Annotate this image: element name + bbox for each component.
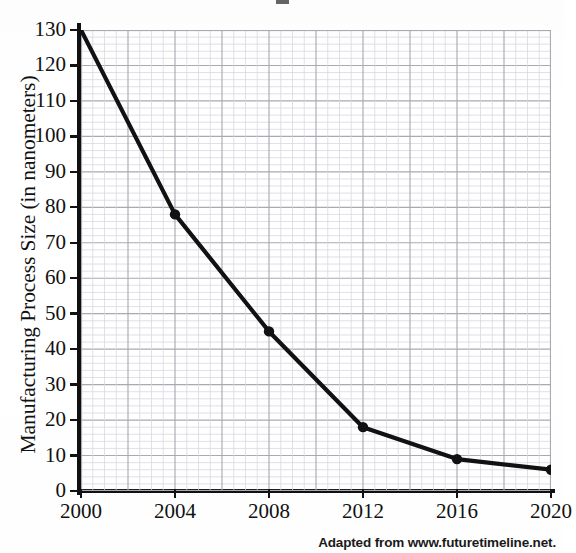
y-tick-mark — [70, 490, 79, 492]
y-tick-label: 30 — [22, 374, 66, 395]
x-tick-label: 2012 — [328, 500, 398, 522]
y-tick-label: 100 — [22, 125, 66, 146]
y-tick-label: 80 — [22, 196, 66, 217]
y-tick-mark — [70, 171, 79, 173]
y-tick-label: 70 — [22, 232, 66, 253]
y-tick-mark — [70, 383, 79, 385]
x-tick-label: 2000 — [46, 500, 116, 522]
y-tick-mark — [70, 312, 79, 314]
y-tick-mark — [70, 348, 79, 350]
y-tick-mark — [70, 419, 79, 421]
y-tick-label: 130 — [22, 19, 66, 40]
x-tick-label: 2008 — [234, 500, 304, 522]
y-tick-label: 90 — [22, 161, 66, 182]
x-tick-mark — [456, 489, 458, 498]
y-tick-mark — [70, 29, 79, 31]
y-tick-label: 60 — [22, 267, 66, 288]
x-tick-mark — [174, 489, 176, 498]
y-tick-mark — [70, 206, 79, 208]
y-tick-label: 120 — [22, 54, 66, 75]
y-tick-mark — [70, 454, 79, 456]
y-tick-mark — [70, 277, 79, 279]
x-tick-mark — [268, 489, 270, 498]
source-caption: Adapted from www.futuretimeline.net. — [318, 535, 556, 550]
y-tick-label: 10 — [22, 445, 66, 466]
y-tick-mark — [70, 242, 79, 244]
y-tick-label: 20 — [22, 409, 66, 430]
y-tick-label: 50 — [22, 303, 66, 324]
plot-area — [81, 30, 551, 491]
x-tick-mark — [550, 489, 552, 498]
x-tick-label: 2016 — [422, 500, 492, 522]
x-tick-mark — [80, 489, 82, 498]
y-tick-mark — [70, 135, 79, 137]
x-tick-label: 2020 — [516, 500, 576, 522]
y-tick-mark — [70, 100, 79, 102]
cropped-title-fragment — [276, 0, 289, 4]
y-tick-label: 110 — [22, 90, 66, 111]
y-tick-label: 40 — [22, 338, 66, 359]
x-tick-label: 2004 — [140, 500, 210, 522]
y-axis-line — [77, 23, 81, 495]
x-tick-mark — [362, 489, 364, 498]
y-tick-label: 0 — [22, 480, 66, 501]
y-tick-mark — [70, 64, 79, 66]
data-series-line — [81, 30, 551, 491]
